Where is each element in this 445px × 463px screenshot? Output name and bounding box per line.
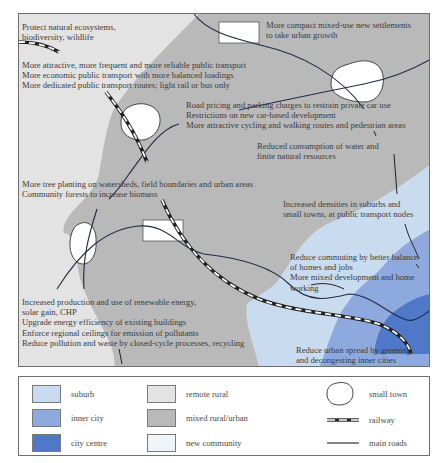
annotation-densities: Increased densities in suburbs and small… [283, 199, 413, 219]
annotation-water: Reduced consumption of water and finite … [257, 141, 379, 161]
legend-item-main-roads: main roads [321, 433, 407, 453]
annotation-trees: More tree planting on watersheds, field … [22, 179, 253, 199]
legend: suburb inner city city centre remote rur… [18, 376, 430, 456]
new-community-top [219, 22, 259, 43]
small-town-west [70, 223, 96, 264]
main-road-icon [321, 433, 361, 453]
small-town-icon [321, 381, 361, 407]
annotation-settlements: More compact mixed-use new settlements t… [266, 20, 411, 40]
map-diagram: Protect natural ecosystems, biodiversity… [18, 13, 430, 367]
suburb-swatch [32, 385, 61, 403]
legend-item-small-town: small town [321, 381, 407, 407]
legend-item-inner-city: inner city [32, 408, 104, 428]
city-centre-swatch [32, 434, 61, 452]
annotation-ecosystems: Protect natural ecosystems, biodiversity… [22, 22, 116, 42]
legend-item-remote-rural: remote rural [147, 384, 228, 404]
remote-rural-swatch [147, 385, 176, 403]
legend-item-city-centre: city centre [32, 433, 107, 453]
legend-item-railway: railway [321, 410, 395, 430]
legend-item-mixed-rural-urban: mixed rural/urban [147, 408, 248, 428]
legend-item-new-community: new community [147, 433, 242, 453]
legend-item-suburb: suburb [32, 384, 94, 404]
annotation-energy: Increased production and use of renewabl… [22, 297, 244, 348]
mixed-rural-urban-swatch [147, 409, 176, 427]
railway-icon [321, 410, 361, 430]
annotation-commuting: Reduce commuting by better balance of ho… [290, 252, 418, 293]
new-community-swatch [147, 434, 176, 452]
inner-city-swatch [32, 409, 61, 427]
annotation-road-pricing: Road pricing and parking charges to rest… [186, 100, 406, 131]
annotation-transport: More attractive, more frequent and more … [22, 60, 246, 91]
annotation-urban-spread: Reduce urban spread by greening and deco… [296, 345, 411, 365]
